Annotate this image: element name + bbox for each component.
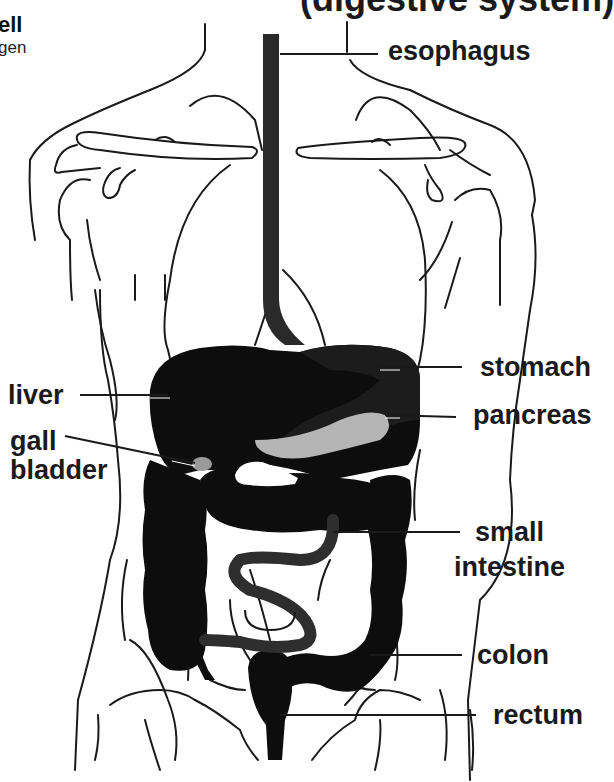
small-intestine	[205, 520, 333, 647]
label-pancreas: pancreas	[473, 400, 592, 430]
label-gall-bladder-line1: gall	[10, 426, 57, 456]
label-stomach: stomach	[480, 352, 591, 382]
label-rectum: rectum	[493, 700, 583, 730]
label-small-intestine-line1: small	[475, 517, 544, 547]
pelvic-ring	[245, 610, 295, 630]
esophagus	[263, 34, 305, 345]
label-esophagus: esophagus	[388, 36, 531, 66]
gall-bladder	[192, 457, 212, 471]
label-small-intestine-line2: intestine	[454, 552, 565, 582]
label-liver: liver	[8, 380, 64, 410]
label-gall-bladder-line2: bladder	[10, 455, 108, 485]
label-colon: colon	[477, 640, 549, 670]
